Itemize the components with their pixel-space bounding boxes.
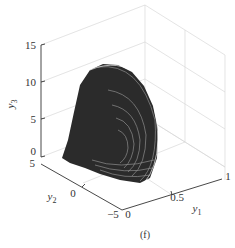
y2-tick-neg5: −5 bbox=[107, 208, 119, 220]
y2-axis-label: y2 bbox=[47, 190, 57, 205]
figure-caption: (f) bbox=[140, 229, 150, 241]
y1-axis-label: y1 bbox=[192, 202, 202, 217]
y2-tick-0: 0 bbox=[70, 187, 76, 199]
y2-tick-5: 5 bbox=[30, 157, 36, 169]
z-tick-0: 0 bbox=[31, 145, 37, 157]
y1-tick-1: 1 bbox=[225, 170, 231, 182]
y1-tick-0-5: 0.5 bbox=[170, 191, 184, 203]
y1-tick-0: 0 bbox=[125, 208, 131, 220]
z-tick-15: 15 bbox=[25, 39, 37, 51]
attractor-trajectory bbox=[62, 64, 158, 183]
phase-portrait-3d: 15 10 5 0 y3 5 0 −5 y2 0 0.5 1 y1 (f) bbox=[0, 0, 235, 248]
z-axis-label: y3 bbox=[4, 100, 19, 110]
svg-text:y3: y3 bbox=[4, 100, 19, 110]
z-tick-5: 5 bbox=[31, 113, 37, 125]
z-tick-10: 10 bbox=[25, 76, 37, 88]
